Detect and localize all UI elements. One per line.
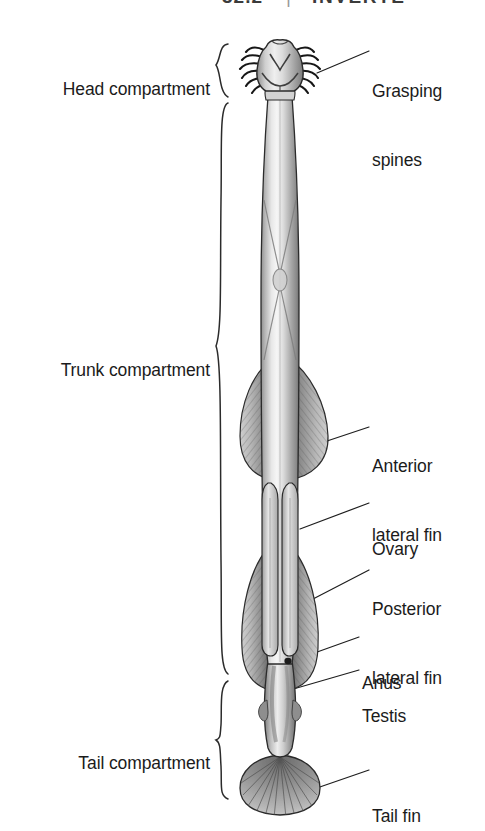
label-anterior-lateral-fin-line1: Anterior <box>372 455 442 478</box>
tail-fin-shape <box>240 755 320 818</box>
leader-tail-fin <box>314 770 369 789</box>
label-grasping-spines-line1: Grasping <box>372 80 442 103</box>
label-grasping-spines: Grasping spines <box>372 34 442 218</box>
head-capsule <box>257 40 303 91</box>
anus-marker <box>284 658 291 664</box>
label-trunk-compartment: Trunk compartment <box>42 336 210 405</box>
trunk-body <box>261 96 299 664</box>
compartment-braces <box>216 44 228 799</box>
label-posterior-lateral-fin-line1: Posterior <box>372 598 442 621</box>
label-tail-fin: Tail fin <box>372 759 421 831</box>
ovary-right <box>282 483 298 656</box>
label-head-compartment-text: Head compartment <box>63 79 210 99</box>
arrow-worm-figure: 32.2 | INVERTE <box>0 0 485 831</box>
brace-trunk <box>216 103 228 674</box>
label-tail-compartment-text: Tail compartment <box>78 753 210 773</box>
leader-posterior-lateral-fin <box>313 570 369 599</box>
brace-tail <box>216 681 228 799</box>
leader-ovary <box>300 503 369 529</box>
label-testis: Testis <box>362 659 406 774</box>
label-head-compartment: Head compartment <box>44 55 210 124</box>
label-testis-line1: Testis <box>362 705 406 728</box>
leader-anterior-lateral-fin <box>327 427 369 441</box>
label-grasping-spines-line2: spines <box>372 149 442 172</box>
ovary-left <box>262 483 278 656</box>
brace-head <box>216 44 228 97</box>
label-trunk-compartment-text: Trunk compartment <box>61 360 210 380</box>
label-tail-fin-line1: Tail fin <box>372 805 421 828</box>
label-tail-compartment: Tail compartment <box>60 729 210 798</box>
leader-grasping-spines <box>317 51 369 73</box>
